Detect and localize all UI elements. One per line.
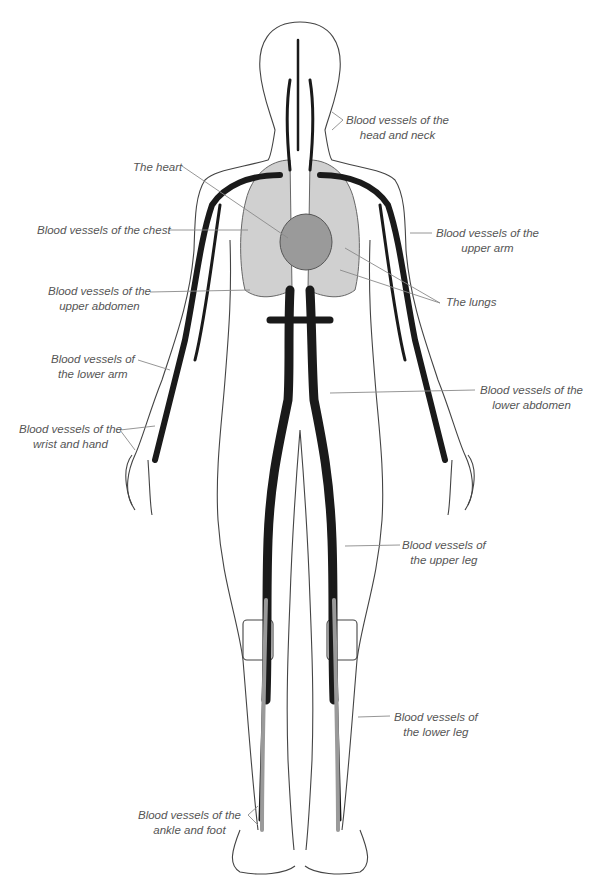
label-lower-arm: Blood vessels ofthe lower arm (51, 352, 135, 382)
label-wrist-hand: Blood vessels of thewrist and hand (19, 422, 122, 452)
label-ankle-foot: Blood vessels of theankle and foot (138, 808, 241, 838)
body-outline (126, 22, 474, 874)
heart (280, 214, 332, 270)
circulatory-diagram: Blood vessels of thehead and neck The he… (0, 0, 597, 889)
label-chest: Blood vessels of the chest (37, 223, 171, 238)
label-head-neck: Blood vessels of thehead and neck (346, 113, 449, 143)
label-upper-leg: Blood vessels ofthe upper leg (402, 538, 486, 568)
label-lungs: The lungs (446, 295, 497, 310)
label-upper-arm: Blood vessels of theupper arm (436, 226, 539, 256)
label-upper-abdomen: Blood vessels of theupper abdomen (48, 284, 151, 314)
label-lower-abdomen: Blood vessels of thelower abdomen (480, 383, 583, 413)
label-heart: The heart (133, 160, 182, 175)
label-lower-leg: Blood vessels ofthe lower leg (394, 710, 478, 740)
